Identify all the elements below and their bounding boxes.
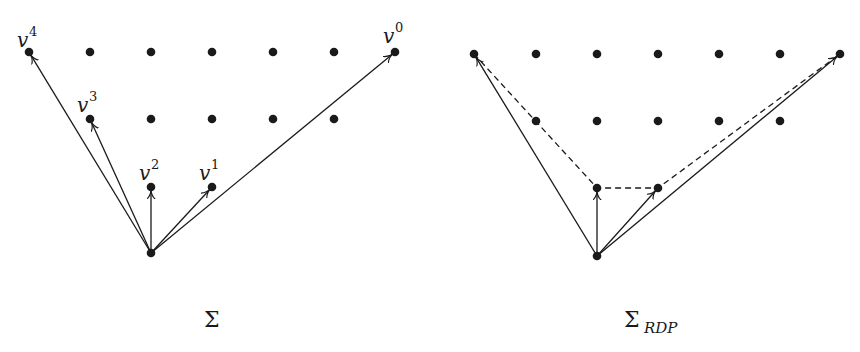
lattice-point — [715, 117, 724, 126]
vector-label-superscript: 4 — [29, 24, 37, 39]
origin-point — [593, 252, 602, 261]
vector-arrow — [597, 190, 656, 256]
caption-sigma-rdp-subscript: RDP — [643, 319, 678, 337]
lattice-point — [593, 50, 602, 59]
vector-label-v4: v — [17, 28, 29, 52]
vector-label-v1: v — [199, 161, 211, 185]
vector-label-superscript: 0 — [395, 20, 403, 35]
lattice-point — [532, 117, 541, 126]
caption-sigma: Σ — [204, 307, 220, 332]
lattice-point — [470, 50, 479, 59]
caption-sigma-rdp-main: Σ — [624, 307, 640, 332]
vector-label-superscript: 2 — [151, 157, 159, 172]
panel-sigma-rdp — [470, 50, 845, 261]
lattice-point — [330, 115, 339, 124]
lattice-point — [776, 50, 785, 59]
lattice-point — [391, 48, 400, 57]
panel-sigma — [25, 48, 400, 258]
lattice-point — [269, 48, 278, 57]
vector-arrow — [151, 189, 210, 253]
lattice-point — [147, 115, 156, 124]
vector-diagram-figure: v4v3v2v1v0 Σ Σ RDP — [0, 0, 860, 352]
lattice-point — [654, 50, 663, 59]
lattice-point — [836, 50, 845, 59]
vector-arrow — [91, 122, 151, 253]
vector-arrow — [597, 56, 838, 256]
lattice-point — [654, 117, 663, 126]
vector-labels: v4v3v2v1v0 — [17, 20, 403, 185]
lattice-point — [654, 184, 663, 193]
origin-point — [147, 249, 156, 258]
lattice-point — [208, 48, 217, 57]
lattice-point — [593, 117, 602, 126]
vector-arrow — [151, 54, 393, 253]
vector-label-v0: v — [383, 24, 395, 48]
lattice-point — [776, 117, 785, 126]
vector-arrow — [31, 55, 151, 253]
vector-label-superscript: 3 — [89, 89, 97, 104]
lattice-point — [269, 115, 278, 124]
vector-label-superscript: 1 — [211, 157, 219, 172]
lattice-point — [593, 184, 602, 193]
lattice-point — [532, 50, 541, 59]
vector-label-v3: v — [77, 93, 89, 117]
lattice-point — [330, 48, 339, 57]
vector-label-v2: v — [139, 161, 151, 185]
lattice-point — [86, 48, 95, 57]
vector-arrow — [476, 57, 597, 256]
lattice-point — [715, 50, 724, 59]
panel-captions: Σ Σ RDP — [204, 307, 678, 337]
lattice-point — [147, 48, 156, 57]
lattice-point — [208, 115, 217, 124]
